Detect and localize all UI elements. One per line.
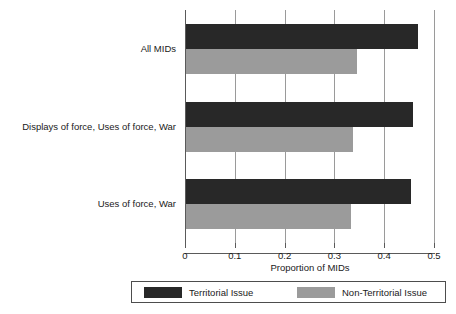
x-tick-label-0.2: 0.2 xyxy=(265,250,305,261)
x-tick-mark-0.4 xyxy=(384,243,385,248)
legend-swatch-territorial-icon xyxy=(144,287,182,298)
x-tick-mark-0.2 xyxy=(285,243,286,248)
bar xyxy=(186,127,353,152)
legend-entry-non-territorial: Non-Territorial Issue xyxy=(297,285,427,299)
x-tick-mark-0.5 xyxy=(434,243,435,248)
x-tick-label-0.1: 0.1 xyxy=(215,250,255,261)
x-axis-title: Proportion of MIDs xyxy=(185,262,435,273)
bar xyxy=(186,102,413,127)
x-tick-label-0.4: 0.4 xyxy=(364,250,404,261)
legend-label-non-territorial: Non-Territorial Issue xyxy=(342,287,427,298)
legend-label-territorial: Territorial Issue xyxy=(189,287,253,298)
chart-legend: Territorial Issue Non-Territorial Issue xyxy=(131,281,446,303)
legend-swatch-non-territorial-icon xyxy=(297,287,335,298)
bar xyxy=(186,24,418,49)
x-tick-mark-0.1 xyxy=(235,243,236,248)
y-axis-label-uses-war: Uses of force, War xyxy=(98,198,176,209)
bar-chart-figure: All MIDs Displays of force, Uses of forc… xyxy=(0,0,456,314)
x-tick-label-0.3: 0.3 xyxy=(314,250,354,261)
x-tick-label-0.5: 0.5 xyxy=(414,250,454,261)
bar xyxy=(186,204,351,229)
bar xyxy=(186,179,411,204)
x-tick-mark-0.3 xyxy=(334,243,335,248)
y-axis-category-labels: All MIDs Displays of force, Uses of forc… xyxy=(0,0,180,314)
y-axis-label-all-mids: All MIDs xyxy=(141,43,176,54)
legend-entry-territorial: Territorial Issue xyxy=(144,285,253,299)
plot-area xyxy=(185,10,434,243)
y-axis-label-displays-uses-war: Displays of force, Uses of force, War xyxy=(22,121,176,132)
x-tick-mark-0 xyxy=(185,243,186,248)
gridline-0.5 xyxy=(434,10,435,243)
bar xyxy=(186,49,357,74)
x-tick-label-0: 0 xyxy=(165,250,205,261)
